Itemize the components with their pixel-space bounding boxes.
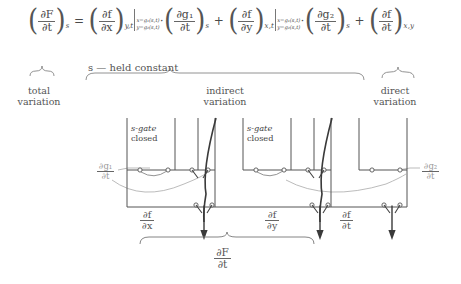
term-3-partial: ∂f∂t [379, 9, 393, 33]
switch-top-2 [308, 170, 324, 178]
paren-close: ) [195, 8, 205, 35]
result-label-dF-dt: ∂F ∂t [214, 247, 231, 270]
paren-close: ) [336, 8, 346, 35]
input-wires [112, 168, 420, 192]
label-indirect-line2: variation [204, 96, 247, 107]
paren-open: ( [369, 8, 379, 35]
term-2-factor-subscript: s [346, 22, 350, 30]
plus-sign-1: + [213, 14, 225, 28]
s-gate-2-line1: s-gate [247, 123, 272, 133]
df-dx-fraction: ∂f ∂x [140, 210, 154, 231]
s-gate-box-2: s-gate closed [247, 124, 273, 143]
dg1-denominator: ∂t [97, 172, 114, 181]
s-gate-1-line2: closed [131, 133, 157, 143]
term-1-factor-denominator: ∂t [174, 22, 195, 34]
output-label-df-dt: ∂f ∂t [340, 210, 353, 231]
dg1-dt-fraction: ∂g₁ ∂t [97, 162, 114, 181]
df-dt-denominator: ∂t [340, 221, 353, 231]
paren-open: ( [228, 8, 238, 35]
term-3-denominator: ∂t [379, 22, 393, 34]
paren-open: ( [89, 8, 99, 35]
term-1-numerator: ∂f [99, 9, 115, 22]
paren-close: ) [254, 8, 264, 35]
label-total-line1: total [28, 85, 50, 96]
equation: (∂F∂t)s = (∂f∂x)y,tx=g₁(s,t)y=g₂(s,t)·(∂… [28, 9, 414, 33]
wire-g1-curve [112, 172, 208, 192]
equation-lhs: (∂F∂t)s [28, 14, 73, 27]
lhs-denominator: ∂t [38, 22, 55, 34]
term-2-factor: ∂g₂∂t [315, 9, 336, 33]
lhs-fraction: ∂F∂t [38, 9, 55, 33]
label-total-variation: total variation [16, 86, 62, 108]
paren-close: ) [393, 8, 403, 35]
eval-x: x=g₁(s,t) [277, 17, 300, 23]
term-2-factor-denominator: ∂t [315, 22, 336, 34]
switch-levers [192, 170, 400, 213]
input-label-dg1-dt: ∂g₁ ∂t [97, 162, 114, 181]
brace-result [140, 232, 314, 244]
term-2-evaluated-at: x=g₁(s,t)y=g₂(s,t) [277, 17, 300, 30]
brace-total [30, 66, 54, 76]
flow-curve-2 [320, 118, 332, 222]
output-label-df-dx: ∂f ∂x [140, 210, 154, 231]
plus-sign-2: + [354, 14, 366, 28]
s-gate-1-line1: s-gate [131, 123, 156, 133]
dF-dt-denominator: ∂t [214, 259, 231, 270]
node-bus [127, 170, 407, 207]
paren-open: ( [164, 8, 174, 35]
df-dy-denominator: ∂y [265, 221, 279, 231]
switch-top-1 [192, 170, 208, 178]
term-3-numerator: ∂f [379, 9, 393, 22]
df-dy-fraction: ∂f ∂y [265, 210, 279, 231]
term-1-evaluated-at: x=g₁(s,t)y=g₂(s,t) [136, 17, 159, 30]
switch-bot-2 [312, 205, 328, 213]
dg2-denominator: ∂t [422, 172, 439, 181]
df-dt-fraction: ∂f ∂t [340, 210, 353, 231]
dF-dt-fraction: ∂F ∂t [214, 247, 231, 270]
term-1: (∂f∂x)y,tx=g₁(s,t)y=g₂(s,t)·(∂g₁∂t)s [89, 14, 213, 27]
df-dx-denominator: ∂x [140, 221, 154, 231]
term-1-factor-subscript: s [205, 22, 209, 30]
term-2-partial: ∂f∂y [238, 9, 254, 33]
eval-y: y=g₂(s,t) [277, 24, 300, 30]
wire-g2-top [398, 168, 420, 170]
term-2: (∂f∂y)x,tx=g₁(s,t)y=g₂(s,t)·(∂g₂∂t)s [228, 14, 353, 27]
bus-nodes [138, 168, 402, 207]
s-gate-2-line2: closed [247, 133, 273, 143]
term-1-subscript: y,t [125, 22, 134, 30]
wire-g2-curve [286, 174, 406, 192]
eval-y: y=g₂(s,t) [136, 24, 159, 30]
closed-contact-arcs [141, 171, 283, 176]
term-1-factor-numerator: ∂g₁ [174, 9, 195, 22]
label-direct-line2: variation [374, 96, 417, 107]
figure-vector-layer [0, 0, 461, 284]
evaluation-bar [275, 9, 276, 31]
eval-x: x=g₁(s,t) [136, 17, 159, 23]
term-2-numerator: ∂f [238, 9, 254, 22]
brace-direct [382, 67, 414, 78]
paren-close: ) [55, 8, 65, 35]
wire-g1-top [118, 168, 150, 170]
paren-close: ) [115, 8, 125, 35]
lhs-subscript: s [66, 22, 70, 30]
label-direct-line1: direct [381, 85, 409, 96]
arc-1 [141, 171, 167, 176]
arc-2 [257, 171, 283, 176]
term-2-subscript: x,t [265, 22, 275, 30]
lhs-numerator: ∂F [38, 9, 55, 22]
term-1-factor: ∂g₁∂t [174, 9, 195, 33]
term-2-factor-numerator: ∂g₂ [315, 9, 336, 22]
term-1-denominator: ∂x [99, 22, 115, 34]
label-indirect-line1: indirect [206, 85, 244, 96]
label-direct-variation: direct variation [370, 86, 420, 108]
flow-curve-1 [204, 118, 216, 222]
term-3-subscript: x,y [404, 22, 415, 30]
s-gate-box-1: s-gate closed [131, 124, 157, 143]
switch-bot-1 [196, 205, 212, 213]
input-label-dg2-dt: ∂g₂ ∂t [422, 162, 439, 181]
chain-rule-figure: (∂F∂t)s = (∂f∂x)y,tx=g₁(s,t)y=g₂(s,t)·(∂… [0, 0, 461, 284]
switch-bot-3 [384, 205, 400, 213]
dg2-dt-fraction: ∂g₂ ∂t [422, 162, 439, 181]
held-constant-note: s — held constant [88, 62, 178, 73]
equals-sign: = [73, 14, 85, 28]
